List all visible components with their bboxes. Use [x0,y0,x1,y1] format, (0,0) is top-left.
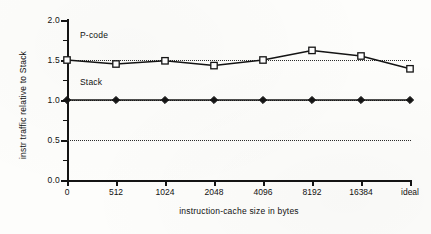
chart-figure: 0.0 0.5 1.0 1.5 2.0 0 512 1024 2048 [0,0,431,234]
marker-filled-diamond [63,96,70,103]
marker-filled-diamond [308,96,315,103]
marker-open-square [309,47,315,53]
marker-open-square [113,61,119,67]
series-label-stack: Stack [80,77,102,87]
marker-open-square [260,57,266,63]
marker-open-square [358,53,364,59]
marker-filled-diamond [210,96,217,103]
series-stack [63,96,413,103]
marker-filled-diamond [406,96,413,103]
marker-open-square [162,58,168,64]
series-label-pcode: P-code [80,30,108,40]
marker-filled-diamond [112,96,119,103]
marker-open-square [64,57,70,63]
series-p-code [64,47,413,72]
marker-open-square [407,66,413,72]
marker-filled-diamond [161,96,168,103]
x-axis-title: instruction-cache size in bytes [67,206,411,216]
series-layer [0,0,431,234]
marker-filled-diamond [259,96,266,103]
marker-filled-diamond [357,96,364,103]
plot-area: 0.0 0.5 1.0 1.5 2.0 0 512 1024 2048 [0,0,431,234]
y-axis-title: instr traffic relative to Stack [18,30,28,180]
marker-open-square [211,62,217,68]
